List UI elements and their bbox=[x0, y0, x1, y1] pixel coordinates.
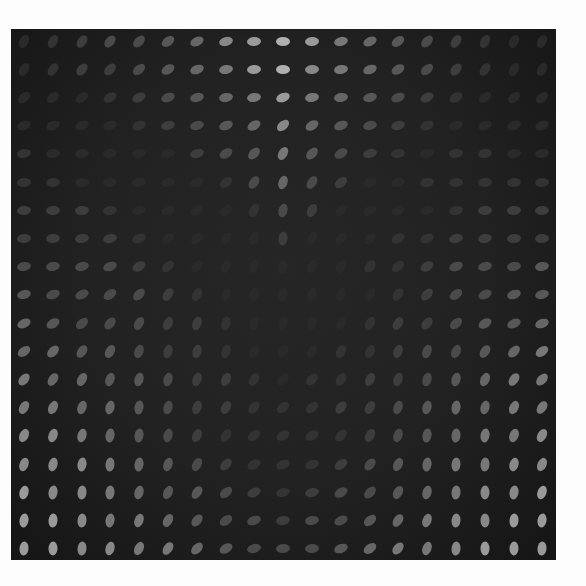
ellipse-dot bbox=[534, 289, 550, 301]
ellipse-dot bbox=[421, 400, 433, 416]
ellipse-dot bbox=[132, 176, 147, 187]
ellipse-dot bbox=[304, 174, 319, 191]
ellipse-dot bbox=[17, 233, 32, 243]
ellipse-dot bbox=[534, 316, 550, 329]
ellipse-dot bbox=[160, 176, 176, 188]
ellipse-dot bbox=[333, 399, 349, 416]
ellipse-dot bbox=[505, 89, 522, 105]
ellipse-dot bbox=[161, 484, 175, 500]
ellipse-dot bbox=[162, 400, 174, 416]
ellipse-dot bbox=[276, 145, 291, 162]
ellipse-dot bbox=[73, 288, 89, 302]
ellipse-dot bbox=[275, 428, 292, 443]
ellipse-dot bbox=[219, 343, 232, 359]
ellipse-dot bbox=[190, 315, 203, 331]
ellipse-dot bbox=[333, 202, 349, 218]
ellipse-dot bbox=[390, 231, 407, 246]
ellipse-dot bbox=[47, 485, 58, 500]
ellipse-dot bbox=[17, 428, 31, 444]
ellipse-dot bbox=[392, 371, 405, 387]
ellipse-dot bbox=[391, 484, 406, 501]
ellipse-dot bbox=[304, 92, 319, 103]
ellipse-dot bbox=[160, 204, 176, 217]
ellipse-dot bbox=[74, 371, 89, 388]
ellipse-dot bbox=[535, 261, 550, 272]
ellipse-dot bbox=[19, 541, 29, 556]
ellipse-dot bbox=[476, 90, 493, 105]
ellipse-dot bbox=[448, 61, 464, 78]
ellipse-dot bbox=[391, 456, 405, 472]
ellipse-dot bbox=[17, 61, 32, 78]
ellipse-dot bbox=[131, 61, 148, 77]
ellipse-dot bbox=[17, 205, 32, 215]
ellipse-dot bbox=[419, 315, 435, 332]
ellipse-dot bbox=[277, 174, 290, 190]
ellipse-dot bbox=[333, 230, 349, 247]
ellipse-dot bbox=[333, 343, 348, 360]
ellipse-dot bbox=[77, 541, 87, 556]
ellipse-dot bbox=[506, 205, 521, 215]
ellipse-dot bbox=[477, 119, 493, 132]
ellipse-dot bbox=[131, 33, 147, 49]
ellipse-dot bbox=[189, 230, 206, 246]
ellipse-dot bbox=[362, 119, 378, 131]
ellipse-dot bbox=[421, 484, 433, 500]
ellipse-dot bbox=[105, 513, 116, 528]
ellipse-dot bbox=[304, 400, 321, 416]
ellipse-dot bbox=[45, 205, 60, 215]
ellipse-dot bbox=[75, 428, 87, 444]
ellipse-dot bbox=[477, 260, 493, 272]
ellipse-dot bbox=[419, 232, 435, 245]
ellipse-dot bbox=[160, 62, 177, 77]
ellipse-dot bbox=[73, 90, 90, 105]
ellipse-dot bbox=[275, 371, 291, 387]
ellipse-dot bbox=[480, 542, 489, 556]
ellipse-dot bbox=[18, 513, 29, 528]
ellipse-dot bbox=[477, 205, 492, 215]
ellipse-dot bbox=[134, 400, 145, 415]
ellipse-dot bbox=[451, 513, 461, 528]
ellipse-dot bbox=[218, 427, 233, 444]
ellipse-dot bbox=[390, 204, 406, 217]
ellipse-dot bbox=[333, 513, 349, 527]
ellipse-dot bbox=[508, 485, 519, 500]
ellipse-dot bbox=[305, 64, 320, 74]
ellipse-dot bbox=[46, 399, 60, 415]
ellipse-dot bbox=[77, 485, 87, 500]
ellipse-dot bbox=[16, 119, 32, 132]
ellipse-dot bbox=[247, 371, 262, 388]
ellipse-dot bbox=[246, 485, 262, 499]
ellipse-dot bbox=[478, 371, 492, 387]
ellipse-dot bbox=[102, 90, 119, 105]
ellipse-dot bbox=[45, 33, 60, 50]
ellipse-dot bbox=[44, 316, 61, 331]
ellipse-dot bbox=[48, 541, 57, 555]
ellipse-dot bbox=[77, 513, 87, 528]
ellipse-dot bbox=[103, 148, 118, 159]
ellipse-dot bbox=[480, 513, 489, 527]
ellipse-dot bbox=[133, 371, 145, 387]
ellipse-dot bbox=[276, 37, 290, 46]
ellipse-dot bbox=[217, 456, 233, 472]
ellipse-dot bbox=[74, 33, 89, 50]
ellipse-dot bbox=[103, 177, 118, 187]
ellipse-dot bbox=[160, 119, 176, 131]
ellipse-dot bbox=[17, 33, 32, 50]
ellipse-dot bbox=[217, 541, 234, 556]
ellipse-dot bbox=[160, 259, 177, 275]
ellipse-dot bbox=[189, 119, 205, 131]
ellipse-dot bbox=[390, 540, 406, 557]
ellipse-dot bbox=[419, 259, 436, 274]
ellipse-dot bbox=[448, 90, 465, 105]
ellipse-dot bbox=[16, 89, 33, 105]
ellipse-dot bbox=[448, 287, 465, 302]
ellipse-dot bbox=[189, 484, 204, 501]
artwork-canvas bbox=[11, 29, 556, 560]
ellipse-dot bbox=[16, 261, 31, 272]
ellipse-dot bbox=[248, 258, 261, 274]
ellipse-dot bbox=[218, 92, 233, 103]
ellipse-dot bbox=[535, 61, 550, 78]
ellipse-dot bbox=[275, 118, 292, 134]
ellipse-dot bbox=[449, 343, 463, 359]
ellipse-dot bbox=[217, 174, 234, 190]
